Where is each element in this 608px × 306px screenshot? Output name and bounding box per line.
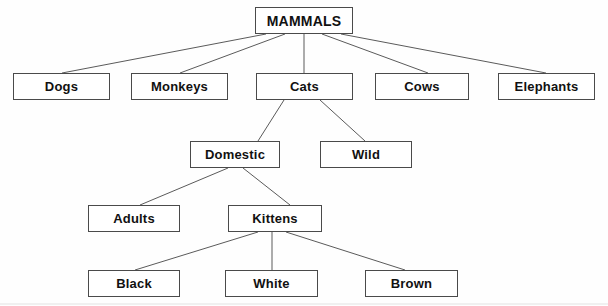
node-box-cats[interactable]: Cats — [256, 73, 353, 100]
tree-edge-mammals-elephants — [341, 34, 546, 73]
node-label-white: White — [253, 277, 289, 290]
node-label-domestic: Domestic — [205, 148, 265, 161]
node-label-wild: Wild — [352, 148, 380, 161]
tree-connector-lines — [0, 0, 608, 306]
node-box-domestic[interactable]: Domestic — [190, 141, 280, 168]
node-label-elephants: Elephants — [515, 80, 579, 93]
node-label-adults: Adults — [113, 212, 155, 225]
tree-edge-mammals-dogs — [62, 34, 266, 73]
tree-edge-cats-wild — [320, 100, 365, 141]
tree-edge-cats-domestic — [258, 100, 284, 141]
tree-edge-kittens-brown — [286, 232, 405, 270]
node-label-monkeys: Monkeys — [151, 80, 208, 93]
node-label-dogs: Dogs — [45, 80, 78, 93]
node-box-mammals[interactable]: MAMMALS — [255, 7, 353, 34]
node-box-monkeys[interactable]: Monkeys — [131, 73, 228, 100]
edge-layer — [62, 34, 546, 270]
node-box-white[interactable]: White — [225, 270, 318, 297]
mammals-tree-diagram: MAMMALSDogsMonkeysCatsCowsElephantsDomes… — [0, 0, 608, 306]
tree-edge-kittens-black — [135, 232, 258, 270]
node-label-black: Black — [116, 277, 152, 290]
node-box-adults[interactable]: Adults — [88, 205, 180, 232]
tree-edge-domestic-adults — [140, 168, 228, 205]
node-box-brown[interactable]: Brown — [365, 270, 458, 297]
node-box-cows[interactable]: Cows — [375, 73, 469, 100]
node-label-cats: Cats — [290, 80, 319, 93]
tree-edge-mammals-cows — [322, 34, 428, 73]
node-label-brown: Brown — [391, 277, 432, 290]
node-box-black[interactable]: Black — [88, 270, 180, 297]
tree-edge-domestic-kittens — [243, 168, 290, 205]
node-label-kittens: Kittens — [252, 212, 297, 225]
node-label-cows: Cows — [404, 80, 439, 93]
node-box-elephants[interactable]: Elephants — [498, 73, 595, 100]
node-box-wild[interactable]: Wild — [320, 141, 412, 168]
node-box-dogs[interactable]: Dogs — [13, 73, 110, 100]
tree-edge-mammals-monkeys — [180, 34, 285, 73]
scan-artifact-line — [0, 303, 608, 305]
node-label-mammals: MAMMALS — [267, 14, 342, 28]
node-box-kittens[interactable]: Kittens — [228, 205, 322, 232]
